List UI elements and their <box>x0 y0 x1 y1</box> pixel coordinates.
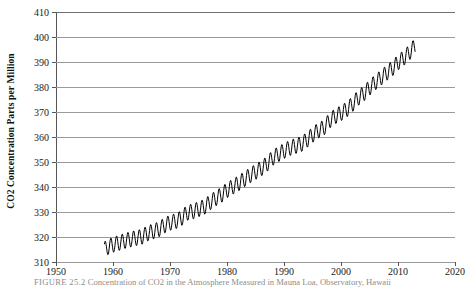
y-axis-title: CO2 Concentration Parts per Million <box>2 0 20 262</box>
x-tick-label-1960: 1960 <box>103 266 123 277</box>
co2-line-series <box>56 12 455 262</box>
plot-area: 310320330340350360370380390400410 195019… <box>56 12 455 262</box>
figure-caption-text: Concentration of CO2 in the Atmosphere M… <box>88 277 391 287</box>
y-tick-label-360: 360 <box>34 132 49 143</box>
x-tick-label-1990: 1990 <box>274 266 294 277</box>
x-tick-label-1950: 1950 <box>46 266 66 277</box>
x-tick-label-2010: 2010 <box>388 266 408 277</box>
x-tick-label-1970: 1970 <box>160 266 180 277</box>
y-axis-title-label: CO2 Concentration Parts per Million <box>6 53 16 208</box>
figure-caption: FIGURE 25.2 Concentration of CO2 in the … <box>34 277 464 288</box>
y-tick-label-350: 350 <box>34 157 49 168</box>
y-tick-label-400: 400 <box>34 32 49 43</box>
figure-number: FIGURE 25.2 <box>34 277 86 287</box>
y-tick-label-380: 380 <box>34 82 49 93</box>
x-tick-label-1980: 1980 <box>217 266 237 277</box>
y-tick-label-320: 320 <box>34 232 49 243</box>
y-tick-label-330: 330 <box>34 207 49 218</box>
x-tick-label-2020: 2020 <box>445 266 465 277</box>
y-tick-label-340: 340 <box>34 182 49 193</box>
x-tick-label-2000: 2000 <box>331 266 351 277</box>
y-tick-label-410: 410 <box>34 7 49 18</box>
y-tick-label-390: 390 <box>34 57 49 68</box>
gridline-310 <box>56 262 455 263</box>
figure-container: CO2 Concentration Parts per Million 3103… <box>0 0 471 289</box>
y-tick-label-370: 370 <box>34 107 49 118</box>
